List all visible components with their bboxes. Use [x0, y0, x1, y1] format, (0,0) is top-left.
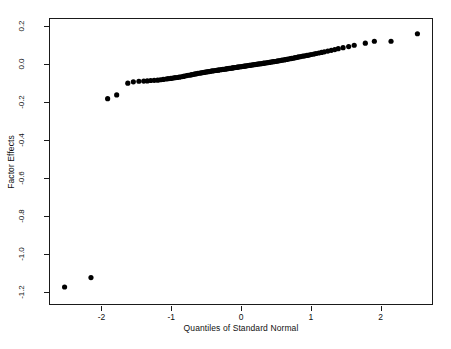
y-axis-title-text: Factor Effects — [6, 135, 16, 189]
x-tick-mark — [241, 306, 242, 311]
data-point — [352, 43, 357, 48]
data-point — [105, 96, 110, 101]
data-point — [372, 39, 377, 44]
data-point — [336, 46, 341, 51]
x-tick-label-text: 0 — [239, 312, 244, 322]
scatter-points-layer — [50, 19, 432, 304]
x-tick-label-text: -2 — [98, 312, 105, 322]
x-tick-label-text: 2 — [378, 312, 383, 322]
qq-plot-figure: 0.20.0-0.2-0.4-0.6-0.8-1.0-1.2 -2-1012 F… — [0, 0, 451, 349]
data-point — [131, 79, 136, 84]
data-point — [341, 45, 346, 50]
data-point — [114, 92, 119, 97]
data-point — [346, 44, 351, 49]
data-point — [415, 31, 420, 36]
data-point — [88, 275, 93, 280]
x-tick-mark — [311, 306, 312, 311]
plot-frame — [49, 18, 433, 305]
x-axis-title: Quantiles of Standard Normal — [49, 323, 433, 333]
y-axis-title: Factor Effects — [4, 18, 18, 305]
data-point — [125, 81, 130, 86]
x-tick-mark — [171, 306, 172, 311]
x-tick-mark — [101, 306, 102, 311]
data-point — [388, 39, 393, 44]
x-tick-label-text: 1 — [308, 312, 313, 322]
data-point — [62, 284, 67, 289]
x-tick-label-text: -1 — [167, 312, 174, 322]
data-point — [363, 41, 368, 46]
data-point — [136, 79, 141, 84]
x-tick-mark — [381, 306, 382, 311]
